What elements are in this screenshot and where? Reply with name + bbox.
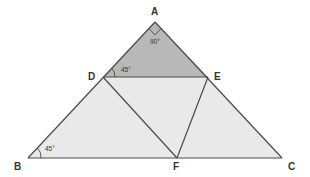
vertex-label-f: F <box>173 161 179 172</box>
vertex-label-b: B <box>14 161 21 172</box>
angle-label-b: 45° <box>45 145 55 152</box>
triangle-ade-shaded <box>103 22 208 77</box>
vertex-label-e: E <box>214 71 221 82</box>
triangle-diagram: A D E B F C 90° 45° 45° <box>0 0 310 177</box>
angle-label-d: 45° <box>121 66 131 73</box>
vertex-label-d: D <box>88 71 95 82</box>
vertex-label-c: C <box>288 161 295 172</box>
angle-label-a: 90° <box>150 38 160 45</box>
vertex-label-a: A <box>151 6 158 17</box>
